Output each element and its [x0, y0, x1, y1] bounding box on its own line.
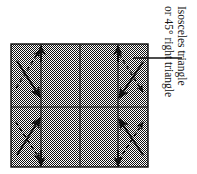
callout-label-line-1: Isosceles triangle: [176, 6, 188, 86]
callout-label-line-2: or 45° right triangle: [163, 6, 175, 97]
figure-container: Isosceles triangle or 45° right triangle: [0, 0, 197, 174]
